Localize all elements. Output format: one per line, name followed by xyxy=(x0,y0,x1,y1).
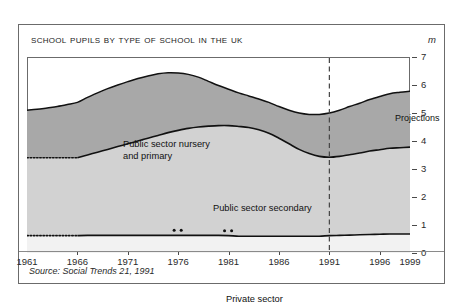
x-tick-label: 1981 xyxy=(218,257,239,267)
private-sector-marker-dot xyxy=(180,229,183,232)
y-tick-label: 2 xyxy=(421,192,426,202)
y-tick-mark xyxy=(412,169,417,170)
series-label-nursery-line1: Public sector nursery xyxy=(123,139,210,151)
y-tick-mark xyxy=(412,141,417,142)
series-label-nursery-line2: and primary xyxy=(123,151,210,163)
y-tick-mark xyxy=(412,85,417,86)
series-label-private: Private sector xyxy=(226,294,283,306)
y-tick-label: 3 xyxy=(421,164,426,174)
y-tick-mark xyxy=(412,197,417,198)
series-label-nursery-primary: Public sector nursery and primary xyxy=(123,139,210,162)
x-tick-label: 1976 xyxy=(168,257,189,267)
plot-area: Public sector nursery and primary Public… xyxy=(27,57,410,253)
y-tick-label: 6 xyxy=(421,80,426,90)
y-tick-mark xyxy=(412,57,417,58)
x-tick-label: 1986 xyxy=(268,257,289,267)
x-tick-label: 1996 xyxy=(369,257,390,267)
source-note: Source: Social Trends 21, 1991 xyxy=(29,266,154,276)
series-label-secondary: Public sector secondary xyxy=(213,203,312,215)
x-tick-label: 1991 xyxy=(319,257,340,267)
private-sector-marker-dot xyxy=(230,229,233,232)
y-tick-mark xyxy=(412,113,417,114)
y-tick-label: 5 xyxy=(421,108,426,118)
y-tick-label: 7 xyxy=(421,52,426,62)
private-sector-marker-dot xyxy=(173,229,176,232)
source-separator xyxy=(19,251,444,252)
y-tick-mark xyxy=(412,253,417,254)
y-tick-mark xyxy=(412,225,417,226)
x-tick-label: 1999 xyxy=(399,257,420,267)
y-axis-unit-label: m xyxy=(428,34,436,45)
y-tick-label: 1 xyxy=(421,220,426,230)
chart-figure: School Pupils By Type of School in the U… xyxy=(18,24,445,284)
stacked-area-chart xyxy=(27,57,410,253)
private-sector-marker-dot xyxy=(223,229,226,232)
y-axis: 01234567 xyxy=(412,57,442,253)
chart-title: School Pupils By Type of School in the U… xyxy=(31,33,243,45)
y-tick-label: 4 xyxy=(421,136,426,146)
